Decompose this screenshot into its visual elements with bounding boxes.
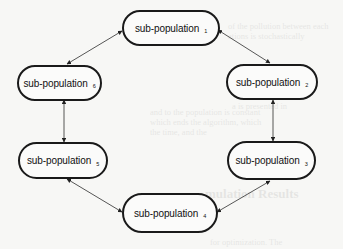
node-label: sub-population	[23, 78, 87, 89]
node-subscript: 2	[305, 82, 308, 88]
node-label: sub-population	[235, 155, 299, 166]
node-label: sub-population	[27, 155, 91, 166]
node-subscript: 6	[93, 83, 96, 89]
edge-6-1	[67, 31, 122, 64]
node-subscript: 5	[96, 161, 99, 167]
edge-3-4	[217, 181, 270, 212]
node-sub-population-4: sub-population4	[122, 193, 218, 233]
node-sub-population-3: sub-population3	[227, 141, 316, 180]
node-sub-population-6: sub-population6	[17, 65, 102, 101]
node-label: sub-population	[236, 77, 300, 88]
node-sub-population-5: sub-population5	[18, 142, 108, 179]
node-subscript: 1	[204, 28, 207, 34]
edge-5-4	[67, 179, 122, 212]
node-subscript: 4	[203, 213, 206, 219]
node-subscript: 3	[305, 161, 308, 167]
node-label: sub-population	[134, 208, 198, 219]
node-sub-population-1: sub-population1	[122, 10, 220, 46]
node-sub-population-2: sub-population2	[226, 64, 318, 100]
edge-1-2	[218, 30, 270, 63]
node-label: sub-population	[135, 23, 199, 34]
